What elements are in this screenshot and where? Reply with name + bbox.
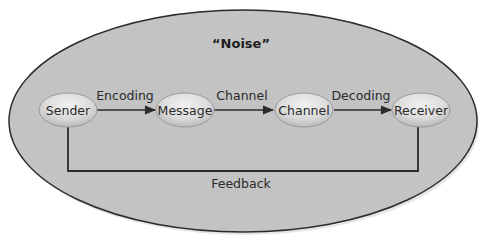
node-receiver-label: Receiver <box>394 103 449 118</box>
node-sender: Sender <box>39 93 97 127</box>
node-channel: Channel <box>275 93 333 127</box>
node-channel-label: Channel <box>278 103 329 118</box>
edge-label-feedback: Feedback <box>211 176 271 191</box>
communication-model-diagram: “Noise” Feedback Encoding Channel Decodi… <box>0 0 484 244</box>
edge-label-decoding: Decoding <box>331 88 390 103</box>
noise-label: “Noise” <box>212 36 270 51</box>
edge-label-channel: Channel <box>216 88 267 103</box>
node-receiver: Receiver <box>392 93 450 127</box>
node-sender-label: Sender <box>46 103 91 118</box>
node-message: Message <box>156 93 214 127</box>
edge-label-encoding: Encoding <box>96 88 154 103</box>
node-message-label: Message <box>158 103 213 118</box>
